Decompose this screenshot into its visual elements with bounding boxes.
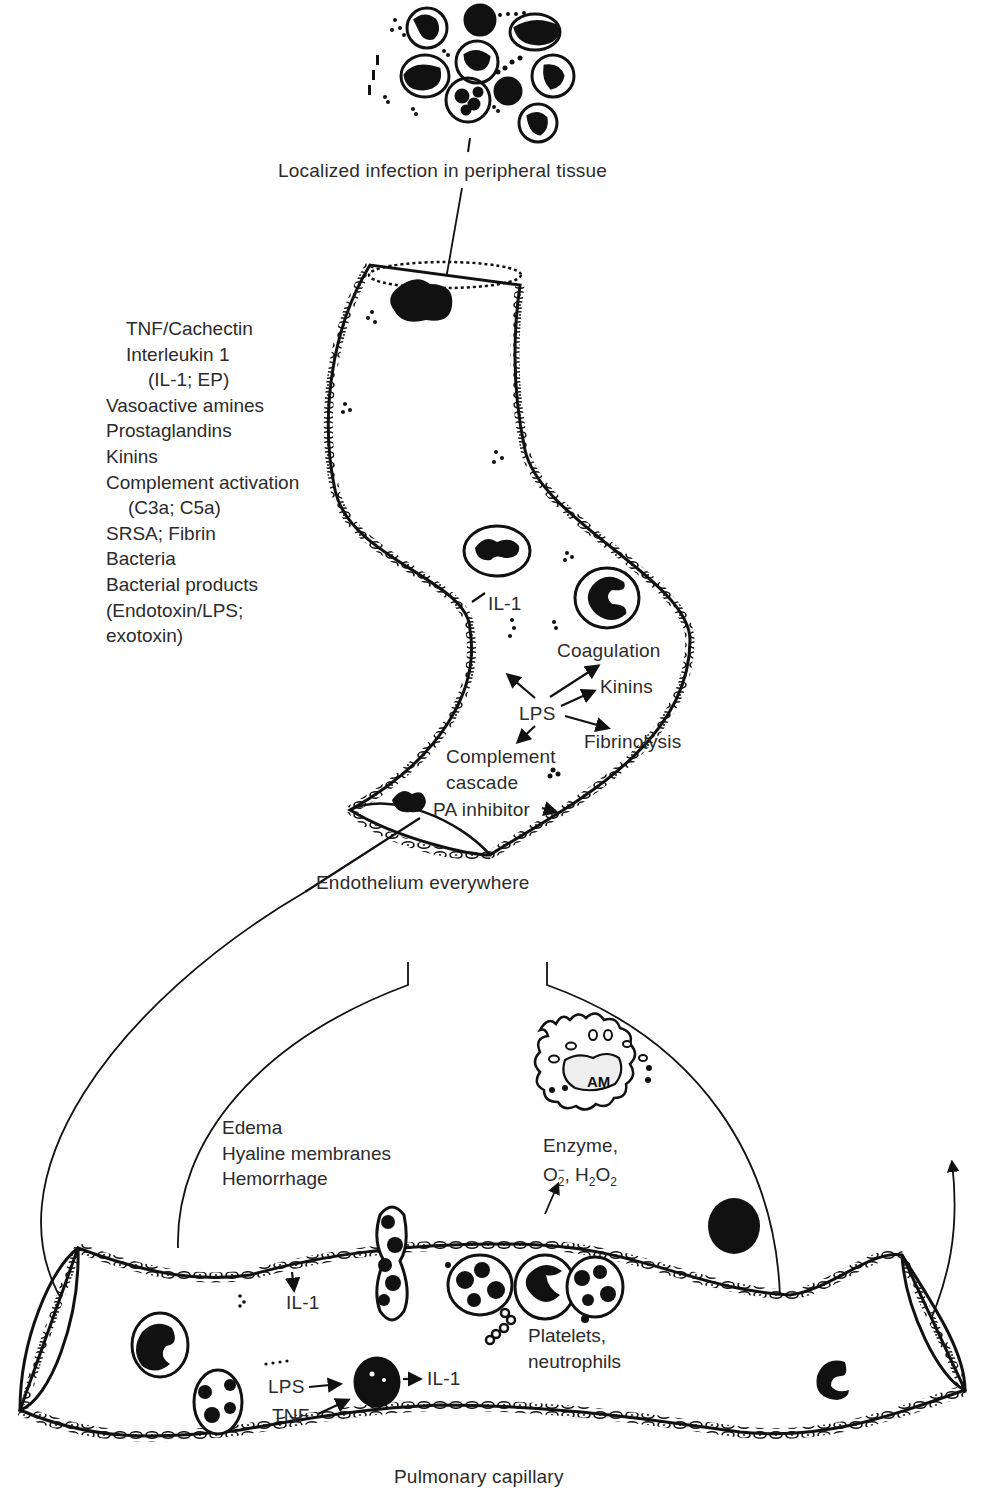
mediator-item: Bacteria <box>106 546 299 572</box>
kinins-label: Kinins <box>600 674 653 700</box>
mediator-item: Prostaglandins <box>106 418 299 444</box>
mediator-item: TNF/Cachectin <box>106 316 299 342</box>
il1-capillary-top-label: IL-1 <box>286 1290 320 1316</box>
mediator-item: (Endotoxin/LPS; <box>106 598 299 624</box>
infection-cluster <box>401 5 574 142</box>
il1-vessel-label: IL-1 <box>488 591 522 617</box>
mediator-item: SRSA; Fibrin <box>106 521 299 547</box>
mediator-item: Kinins <box>106 444 299 470</box>
injury-effects-list: Edema Hyaline membranes Hemorrhage <box>222 1115 391 1192</box>
mediator-item: (C3a; C5a) <box>106 495 299 521</box>
pulmonary-capillary <box>20 1207 965 1436</box>
lps-label: LPS <box>519 701 556 727</box>
coagulation-label: Coagulation <box>557 638 661 664</box>
il1-capillary-out-label: IL-1 <box>427 1366 461 1392</box>
cascade-line: cascade <box>446 770 556 796</box>
injury-effect-item: Hyaline membranes <box>222 1141 391 1167</box>
mediator-item: (IL-1; EP) <box>106 367 299 393</box>
mediator-item: Bacterial products <box>106 572 299 598</box>
endothelium-label: Endothelium everywhere <box>316 870 530 896</box>
complement-line: Complement <box>446 744 556 770</box>
mediator-item: Vasoactive amines <box>106 393 299 419</box>
platelets-label: Platelets, neutrophils <box>528 1323 621 1375</box>
platelets-line: Platelets, <box>528 1323 621 1349</box>
mediator-list: TNF/Cachectin Interleukin 1 (IL-1; EP) V… <box>106 316 299 649</box>
tnf-capillary-label: TNF <box>272 1403 310 1429</box>
mediator-item: Interleukin 1 <box>106 342 299 368</box>
injury-effect-item: Edema <box>222 1115 391 1141</box>
enzyme-label: Enzyme, <box>543 1133 618 1159</box>
mediator-item: exotoxin) <box>106 623 299 649</box>
pa-inhibitor-label: PA inhibitor <box>433 797 530 823</box>
pulmonary-capillary-label: Pulmonary capillary <box>394 1464 564 1490</box>
neutrophils-line: neutrophils <box>528 1349 621 1375</box>
injury-effect-item: Hemorrhage <box>222 1166 391 1192</box>
fibrinolysis-label: Fibrinolysis <box>584 729 681 755</box>
oxidants-label: O2−, H2O2 <box>543 1158 617 1195</box>
infection-label: Localized infection in peripheral tissue <box>278 158 607 184</box>
mediator-item: Complement activation <box>106 470 299 496</box>
complement-cascade-label: Complement cascade <box>446 744 556 796</box>
lps-capillary-label: LPS <box>268 1374 305 1400</box>
alveolar-macrophage-label: AM <box>587 1073 610 1090</box>
